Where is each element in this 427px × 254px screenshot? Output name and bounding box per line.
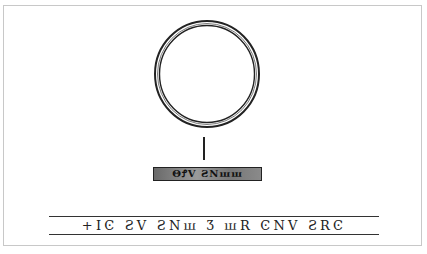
band-inscription-text: +IϾ ƧV ƧNꟺ Ʒ ꟺR ϾNV ƧRϾ: [82, 218, 346, 233]
connector-line: [203, 137, 205, 160]
ring-drawing: [153, 19, 261, 131]
bezel-inscription-text: ΘꝬV ƧNꟺꟺ: [172, 168, 243, 180]
band-inscription-strip: +IϾ ƧV ƧNꟺ Ʒ ꟺR ϾNV ƧRϾ: [49, 216, 379, 235]
bezel-inscription-panel: ΘꝬV ƧNꟺꟺ: [153, 167, 262, 181]
